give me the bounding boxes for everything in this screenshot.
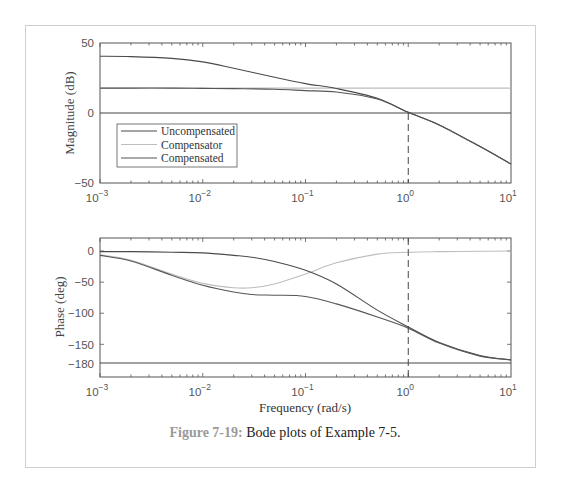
caption-label: Figure 7-19: — [169, 425, 242, 440]
x-tick-label: 100 — [396, 188, 414, 204]
phase-plot: 0 −50 −100 −150 −180 Phase (deg) 10−310−… — [52, 238, 517, 415]
x-tick-label: 10−1 — [291, 382, 314, 398]
bode-plot: 50 0 −50 Magnitude (dB) 10−310−210−11001… — [0, 0, 570, 484]
mag-ytick-neg50: −50 — [74, 177, 94, 189]
legend-label-uncompensated: Uncompensated — [161, 125, 235, 138]
phase-axis-label: Phase (deg) — [52, 276, 67, 337]
magnitude-axis-label: Magnitude (dB) — [62, 71, 77, 154]
x-tick-label: 10−2 — [189, 382, 212, 398]
caption-text: Bode plots of Example 7-5. — [243, 425, 401, 440]
phase-ytick-neg180: −180 — [68, 358, 94, 370]
x-tick-label: 10−3 — [86, 382, 109, 398]
frequency-axis-label: Frequency (rad/s) — [259, 400, 351, 415]
x-tick-label: 10−2 — [189, 188, 212, 204]
mag-ytick-0: 0 — [88, 107, 94, 119]
x-tick-label: 10−1 — [291, 188, 314, 204]
phase-ytick-neg150: −150 — [68, 339, 94, 351]
phase-x-tick-labels: 10−310−210−1100101 — [86, 382, 517, 398]
x-tick-label: 10−3 — [86, 188, 109, 204]
magnitude-plot: 50 0 −50 Magnitude (dB) 10−310−210−11001… — [62, 37, 517, 204]
x-tick-label: 101 — [499, 188, 517, 204]
phase-ytick-0: 0 — [88, 245, 94, 257]
phase-ytick-neg50: −50 — [74, 276, 94, 288]
legend: Uncompensated Compensator Compensated — [117, 124, 237, 167]
legend-label-compensator: Compensator — [161, 139, 222, 152]
mag-ytick-50: 50 — [81, 37, 94, 49]
phase-ytick-neg100: −100 — [68, 307, 94, 319]
x-tick-label: 101 — [499, 382, 517, 398]
figure-caption: Figure 7-19: Bode plots of Example 7-5. — [0, 425, 570, 441]
phase-axes-box — [100, 238, 511, 377]
magnitude-x-tick-labels: 10−310−210−1100101 — [86, 188, 517, 204]
x-tick-label: 100 — [396, 382, 414, 398]
legend-label-compensated: Compensated — [161, 152, 224, 165]
